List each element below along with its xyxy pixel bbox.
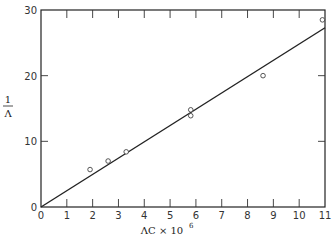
data-points [88,18,325,172]
y-axis-label: 1 Λ [3,94,13,119]
plot-frame [41,10,325,207]
x-tick-label: 1 [64,210,70,221]
x-tick-label: 2 [89,210,95,221]
y-tick-label: 10 [24,136,37,147]
x-axis-label: ΛC × 10 6 [140,222,194,236]
y-tick-label: 30 [24,5,37,16]
data-point [261,73,266,78]
data-point [88,167,93,172]
x-tick-label: 7 [219,210,225,221]
data-point [188,113,193,118]
x-tick-label: 9 [270,210,276,221]
chart: 01234567891011 0102030 1 Λ ΛC × 10 6 [0,0,335,239]
x-tick-label: 11 [319,210,332,221]
x-tick-label: 8 [244,210,250,221]
x-tick-label: 6 [193,210,199,221]
x-tick-label: 3 [115,210,121,221]
y-tick-label: 20 [24,71,37,82]
data-point [124,150,129,155]
x-axis-ticks: 01234567891011 [38,10,332,221]
x-axis-label-exponent: 6 [189,222,194,230]
fit-line [41,28,325,207]
x-tick-label: 4 [141,210,147,221]
y-axis-label-denominator: Λ [3,108,12,119]
x-tick-label: 5 [167,210,173,221]
data-point [320,18,325,23]
y-axis-label-numerator: 1 [5,94,11,105]
y-axis-ticks: 0102030 [24,5,325,213]
x-axis-label-main: ΛC × 10 [140,225,183,236]
y-tick-label: 0 [31,202,37,213]
data-point [188,108,193,113]
x-tick-label: 10 [293,210,306,221]
x-tick-label: 0 [38,210,44,221]
data-point [106,159,111,164]
